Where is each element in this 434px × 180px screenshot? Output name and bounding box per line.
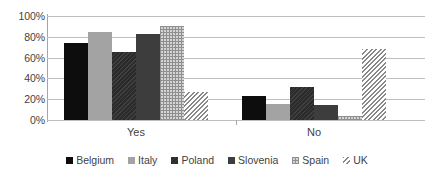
legend-item-spain[interactable]: Spain — [292, 155, 329, 166]
legend-swatch-icon — [171, 157, 178, 164]
bar-chart: 100%80%60%40%20%0% YesNo BelgiumItalyPol… — [0, 0, 434, 180]
bar-belgium-no[interactable] — [242, 96, 266, 120]
bar-group — [64, 16, 208, 120]
bar-uk-yes[interactable] — [184, 92, 208, 120]
bar-poland-yes[interactable] — [112, 52, 136, 120]
legend-item-poland[interactable]: Poland — [171, 155, 214, 166]
x-axis-category-yes: Yes — [106, 126, 166, 138]
legend-swatch-icon — [66, 157, 73, 164]
x-axis-category-no: No — [284, 126, 344, 138]
x-axis-tick — [236, 120, 237, 125]
legend-item-slovenia[interactable]: Slovenia — [228, 155, 278, 166]
legend-label: UK — [353, 155, 368, 166]
legend-swatch-icon — [292, 157, 299, 164]
legend-label: Spain — [302, 155, 329, 166]
bar-italy-yes[interactable] — [88, 32, 112, 120]
y-axis-tick-label: 0% — [3, 115, 45, 126]
legend-swatch-icon — [128, 157, 135, 164]
y-axis-tick-label: 100% — [3, 11, 45, 22]
legend-item-italy[interactable]: Italy — [128, 155, 157, 166]
plot-area — [47, 16, 425, 120]
y-axis-tick-label: 60% — [3, 53, 45, 64]
legend-label: Slovenia — [238, 155, 278, 166]
bar-spain-no[interactable] — [338, 116, 362, 120]
legend-item-uk[interactable]: UK — [343, 155, 368, 166]
bar-poland-no[interactable] — [290, 87, 314, 120]
bar-slovenia-yes[interactable] — [136, 34, 160, 120]
y-axis-tick-label: 20% — [3, 94, 45, 105]
bar-slovenia-no[interactable] — [314, 105, 338, 120]
chart-legend: BelgiumItalyPolandSloveniaSpainUK — [0, 150, 434, 170]
bar-belgium-yes[interactable] — [64, 43, 88, 120]
y-axis-tick-label: 80% — [3, 32, 45, 43]
bar-group — [242, 16, 386, 120]
bar-uk-no[interactable] — [362, 49, 386, 120]
bar-italy-no[interactable] — [266, 104, 290, 120]
legend-item-belgium[interactable]: Belgium — [66, 155, 114, 166]
legend-label: Italy — [138, 155, 157, 166]
legend-label: Poland — [181, 155, 214, 166]
bar-spain-yes[interactable] — [160, 26, 184, 120]
legend-label: Belgium — [76, 155, 114, 166]
legend-swatch-icon — [228, 157, 235, 164]
y-axis-tick-label: 40% — [3, 73, 45, 84]
legend-swatch-icon — [343, 157, 350, 164]
